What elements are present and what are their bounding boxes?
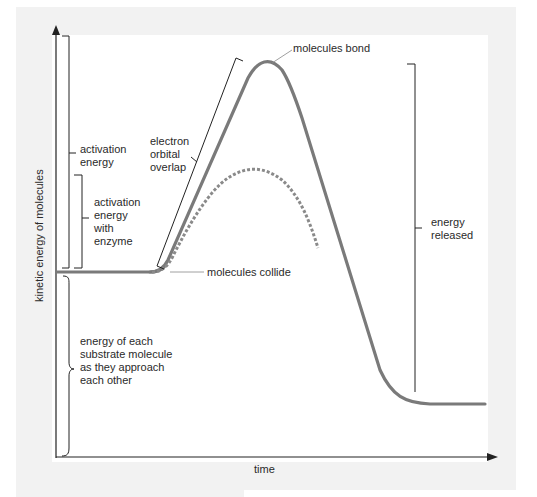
molecules-bond-label: molecules bond <box>293 42 370 54</box>
energy-diagram: kinetic energy of molecules time activat… <box>0 0 537 497</box>
x-axis-label: time <box>254 463 275 475</box>
molecules-collide-label: molecules collide <box>207 266 291 278</box>
y-axis-label: kinetic energy of molecules <box>33 169 45 302</box>
energy-released-label: energy released <box>431 216 473 241</box>
plot-area <box>52 35 488 462</box>
